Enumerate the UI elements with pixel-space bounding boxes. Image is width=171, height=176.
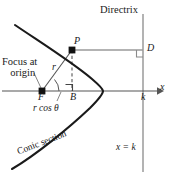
focus-at-origin-label: Focus at origin [2,56,37,78]
r-cos-theta-label: r cos θ [33,104,59,114]
point-label-d: D [147,43,154,54]
point-label-b: B [70,92,76,103]
directrix-equation-label: x = k [116,143,136,153]
x-axis-label: x [160,82,164,93]
theta-angle-arc [55,80,60,92]
point-marker-p [69,47,76,54]
directrix-label: Directrix [100,4,138,15]
focus-note-line-1: Focus at [2,56,37,67]
focus-note-line-2: origin [2,67,37,78]
rcos-leader-line [57,92,61,101]
right-angle-mark-d [137,50,144,57]
point-label-p: P [74,36,80,47]
axis-tick-label-k: k [141,92,145,103]
conic-section-figure: Directrix P D Focus at origin r F B k x … [0,0,171,176]
point-label-f: F [38,92,44,103]
radius-label: r [52,62,56,73]
